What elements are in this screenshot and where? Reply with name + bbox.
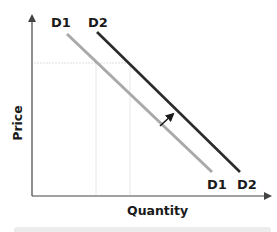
shift-arrow-icon — [160, 114, 173, 126]
d1-bottom-label: D1 — [207, 177, 227, 192]
footer-bar — [14, 227, 271, 232]
y-axis-label: Price — [10, 105, 25, 141]
d2-top-label: D2 — [88, 15, 108, 30]
d2-demand-line — [97, 32, 240, 172]
x-axis-label: Quantity — [127, 203, 188, 218]
demand-shift-diagram: D1 D2 D1 D2 Quantity Price — [0, 0, 277, 232]
d1-top-label: D1 — [51, 15, 71, 30]
d2-bottom-label: D2 — [237, 177, 257, 192]
guide-lines — [34, 63, 130, 195]
d1-demand-line — [67, 34, 212, 172]
